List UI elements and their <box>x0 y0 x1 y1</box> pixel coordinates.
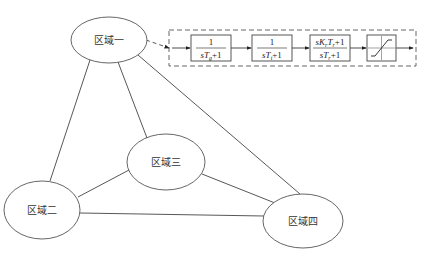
label-area3: 区域三 <box>151 156 181 168</box>
label-area4: 区域四 <box>288 215 318 227</box>
edge-area1-area3 <box>118 62 147 138</box>
edge-area1-area2 <box>50 60 90 181</box>
svg-text:sKrTr+1: sKrTr+1 <box>316 37 345 48</box>
edge-area2-area3 <box>78 170 129 197</box>
label-area2: 区域二 <box>27 204 57 216</box>
block-turbine: 1 sTt+1 <box>252 35 292 61</box>
edge-area3-area4 <box>202 174 275 203</box>
label-area1: 区域一 <box>94 34 124 46</box>
svg-text:sTr+1: sTr+1 <box>320 50 340 61</box>
svg-text:sTg+1: sTg+1 <box>200 50 221 61</box>
block-saturation <box>367 35 396 61</box>
edge-area2-area4 <box>80 213 264 216</box>
dashed-link-area1-control <box>146 40 169 48</box>
block-reheat: sKrTr+1 sTr+1 <box>310 35 350 61</box>
svg-text:1: 1 <box>209 37 214 47</box>
svg-text:1: 1 <box>270 37 275 47</box>
block-governor: 1 sTg+1 <box>191 35 231 61</box>
svg-text:sTt+1: sTt+1 <box>262 50 282 61</box>
diagram-canvas: 区域一 区域二 区域三 区域四 1 sTg+1 1 sTt+1 sKrTr+1 … <box>0 0 425 256</box>
